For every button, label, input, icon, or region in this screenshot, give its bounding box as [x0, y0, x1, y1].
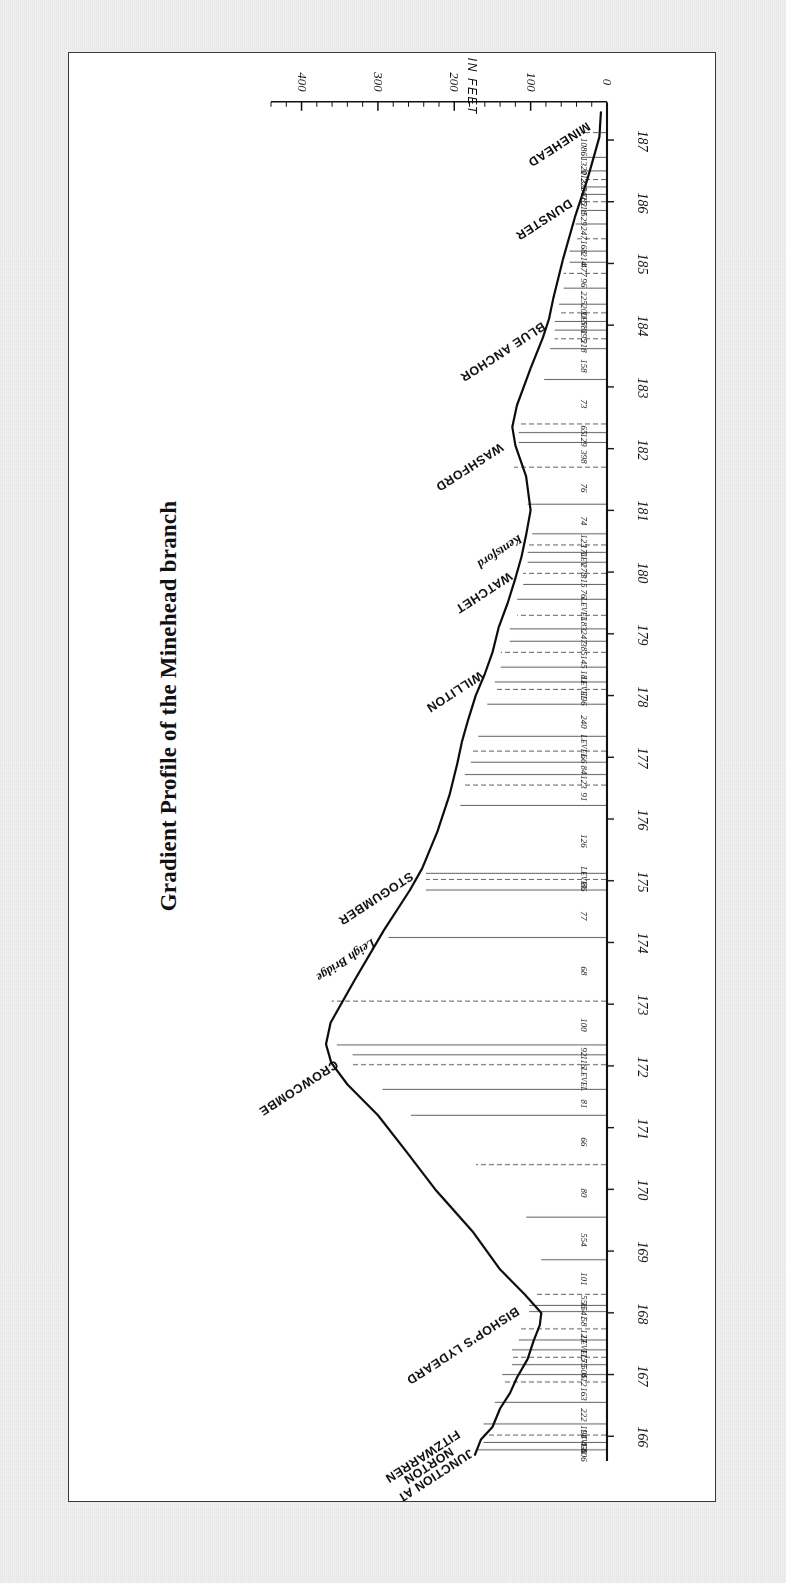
gradient-value: 126	[579, 824, 589, 858]
gradient-profile-chart: 1661671681691701711721731741751761771781…	[259, 73, 699, 1483]
gradient-value: 101	[579, 1262, 589, 1296]
milepost-label: 182	[634, 433, 650, 467]
gradient-value: 68	[579, 954, 589, 988]
milepost-label: 173	[634, 988, 650, 1022]
milepost-label: 166	[634, 1420, 650, 1454]
altitude-axis-title: ALTITUDE IN FEET	[465, 52, 479, 129]
milepost-label: 179	[634, 618, 650, 652]
milepost-label: 169	[634, 1235, 650, 1269]
gradient-value: LEVEL	[580, 862, 589, 896]
milepost-label: 175	[634, 865, 650, 899]
milepost-label: 181	[634, 494, 650, 528]
milepost-label: 185	[634, 248, 650, 282]
gradient-value: 100	[579, 1008, 589, 1042]
page-background: Gradient Profile of the Minehead branch …	[0, 0, 786, 1583]
gradient-value: 66	[579, 1125, 589, 1159]
chart-canvas: 1661671681691701711721731741751761771781…	[259, 73, 699, 1483]
profile-svg	[259, 73, 699, 1483]
milepost-label: 177	[634, 741, 650, 775]
profile-line	[326, 112, 601, 1455]
gradient-value: 76	[579, 471, 589, 505]
milepost-label: 178	[634, 680, 650, 714]
figure-plate: Gradient Profile of the Minehead branch …	[68, 52, 716, 1502]
gradient-value: 554	[579, 1223, 589, 1257]
altitude-tick-label: 400	[294, 62, 310, 102]
gradient-value: 80	[579, 1176, 589, 1210]
milepost-label: 172	[634, 1050, 650, 1084]
altitude-tick-label: 300	[370, 62, 386, 102]
milepost-label: 171	[634, 1112, 650, 1146]
figure-title: Gradient Profile of the Minehead branch	[156, 446, 182, 966]
milepost-label: 170	[634, 1173, 650, 1207]
milepost-label: 184	[634, 309, 650, 343]
milepost-label: 183	[634, 371, 650, 405]
altitude-tick-label: 200	[446, 62, 462, 102]
altitude-tick-label: 0	[599, 62, 615, 102]
milepost-label: 176	[634, 803, 650, 837]
milepost-label: 186	[634, 186, 650, 220]
gradient-value: 74	[579, 504, 589, 538]
gradient-value: 73	[579, 387, 589, 421]
milepost-label: 180	[634, 556, 650, 590]
altitude-tick-label: 100	[523, 62, 539, 102]
milepost-label: 187	[634, 124, 650, 158]
milepost-label: 174	[634, 927, 650, 961]
milepost-label: 167	[634, 1359, 650, 1393]
milepost-label: 168	[634, 1297, 650, 1331]
